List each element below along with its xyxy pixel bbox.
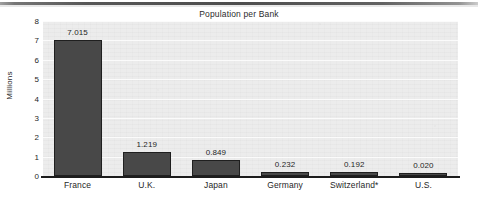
- bar-value-label: 0.849: [206, 148, 227, 157]
- chart-title: Population per Bank: [0, 9, 478, 19]
- x-axis-tick-label: Switzerland*: [330, 180, 378, 190]
- bar-slot: [43, 21, 112, 176]
- bar-slot: [320, 21, 389, 176]
- bar-value-label: 0.192: [344, 160, 365, 169]
- bar: [192, 160, 240, 176]
- x-axis-line: [41, 176, 460, 178]
- y-axis-tick-label: 2: [35, 133, 39, 142]
- bar: [123, 152, 171, 176]
- bar-slot: [112, 21, 181, 176]
- x-axis-tick-label: U.S.: [415, 180, 432, 190]
- bar-value-label: 7.015: [67, 28, 88, 37]
- y-axis-tick-label: 4: [35, 94, 39, 103]
- y-axis-tick-label: 5: [35, 75, 39, 84]
- bar-value-label: 1.219: [136, 140, 157, 149]
- y-axis-tick-label: 1: [35, 152, 39, 161]
- y-axis-tick-label: 8: [35, 17, 39, 26]
- bar: [54, 40, 102, 176]
- y-axis-tick-label: 6: [35, 55, 39, 64]
- bar-value-label: 0.020: [413, 161, 434, 170]
- y-axis-title: Millions: [5, 56, 14, 116]
- bar-slot: [389, 21, 458, 176]
- y-axis-tick-label: 0: [35, 172, 39, 181]
- y-axis-tick-label: 3: [35, 113, 39, 122]
- scan-artifact-band-soft: [0, 5, 478, 7]
- x-axis-tick-labels: FranceU.K.JapanGermanySwitzerland*U.S.: [43, 180, 458, 194]
- x-axis-tick-label: France: [64, 180, 91, 190]
- chart-figure: Population per Bank Millions 012345678 7…: [0, 0, 478, 200]
- bar-slot: [251, 21, 320, 176]
- bar-value-label: 0.232: [275, 160, 296, 169]
- x-axis-tick-label: Germany: [267, 180, 303, 190]
- x-axis-tick-label: U.K.: [138, 180, 155, 190]
- y-axis-tick-label: 7: [35, 36, 39, 45]
- x-axis-tick-label: Japan: [204, 180, 228, 190]
- bars-layer: 7.0151.2190.8490.2320.1920.020: [43, 21, 458, 176]
